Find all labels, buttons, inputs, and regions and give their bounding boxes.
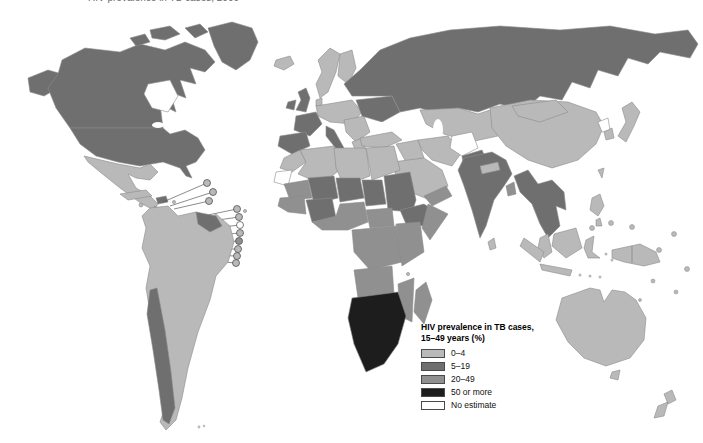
region-cameroon-car bbox=[366, 208, 394, 228]
legend-title-line1: HIV prevalence in TB cases, bbox=[421, 322, 534, 332]
region-tasmania bbox=[610, 370, 620, 380]
region-sudan bbox=[384, 172, 416, 212]
region-arctic-islands bbox=[130, 24, 208, 46]
region-falkland-islands bbox=[198, 425, 206, 429]
region-denmark bbox=[316, 98, 322, 106]
legend-item-label: 5–19 bbox=[451, 361, 470, 371]
legend-item: 20–49 bbox=[421, 374, 534, 384]
region-scandinavia bbox=[316, 48, 340, 98]
legend-swatch bbox=[421, 388, 445, 397]
legend: HIV prevalence in TB cases, 15–49 years … bbox=[421, 322, 534, 413]
region-drc-congo bbox=[352, 226, 402, 270]
region-indochina bbox=[514, 170, 566, 238]
region-new-zealand bbox=[654, 390, 676, 418]
callout-circle bbox=[234, 206, 241, 213]
map-figure: HIV prevalence in TB cases, 2000 bbox=[0, 0, 703, 443]
region-java bbox=[540, 264, 572, 276]
callout-circle bbox=[210, 189, 217, 196]
callout-circle bbox=[237, 222, 244, 229]
region-philippines bbox=[590, 194, 604, 226]
callout-circle bbox=[236, 214, 243, 221]
callout-circle bbox=[237, 230, 244, 237]
great-lakes bbox=[152, 122, 164, 128]
legend-title: HIV prevalence in TB cases, 15–49 years … bbox=[421, 322, 534, 344]
legend-swatch bbox=[421, 401, 445, 410]
region-hispaniola bbox=[156, 196, 168, 204]
region-sri-lanka bbox=[488, 238, 496, 250]
callout-circle bbox=[236, 238, 243, 245]
region-cape-verde bbox=[243, 209, 246, 212]
region-sulawesi bbox=[584, 236, 600, 258]
region-greenland bbox=[208, 22, 258, 70]
legend-rows: 0–4 5–19 20–49 50 or more No estimate bbox=[421, 348, 534, 410]
region-france bbox=[294, 112, 322, 136]
legend-item: 0–4 bbox=[421, 348, 534, 358]
callout-circle bbox=[234, 253, 241, 260]
region-borneo bbox=[552, 228, 582, 258]
legend-item-label: 50 or more bbox=[451, 387, 492, 397]
great-lakes-2 bbox=[165, 119, 173, 124]
legend-swatch bbox=[421, 375, 445, 384]
region-ireland bbox=[286, 100, 296, 110]
world-map bbox=[0, 0, 703, 443]
region-southern-africa bbox=[348, 292, 406, 372]
callout-circle bbox=[233, 260, 240, 267]
region-russia bbox=[344, 26, 698, 114]
region-puerto-rico bbox=[172, 200, 175, 203]
region-senegal-guinea bbox=[278, 196, 306, 214]
legend-title-line2: 15–49 years (%) bbox=[421, 333, 485, 343]
legend-item: 5–19 bbox=[421, 361, 534, 371]
black-sea bbox=[371, 122, 389, 132]
region-australia bbox=[556, 288, 646, 366]
legend-item: No estimate bbox=[421, 400, 534, 410]
region-uk bbox=[296, 88, 310, 112]
region-japan bbox=[618, 102, 640, 142]
legend-item: 50 or more bbox=[421, 387, 534, 397]
region-comoros bbox=[406, 272, 409, 275]
legend-item-label: 20–49 bbox=[451, 374, 475, 384]
legend-item-label: No estimate bbox=[451, 400, 496, 410]
legend-swatch bbox=[421, 362, 445, 371]
callout-circle bbox=[206, 198, 213, 205]
legend-item-label: 0–4 bbox=[451, 348, 465, 358]
callout-circle bbox=[235, 246, 242, 253]
region-taiwan bbox=[598, 168, 604, 178]
region-iceland bbox=[274, 56, 294, 70]
region-new-guinea bbox=[612, 244, 660, 266]
region-madagascar bbox=[414, 282, 432, 324]
region-bangladesh bbox=[506, 182, 516, 196]
region-chad bbox=[362, 180, 386, 206]
region-canada bbox=[48, 42, 215, 128]
callout-circle bbox=[204, 180, 211, 187]
region-jamaica bbox=[139, 203, 143, 207]
legend-swatch bbox=[421, 349, 445, 358]
region-niger bbox=[336, 178, 364, 202]
